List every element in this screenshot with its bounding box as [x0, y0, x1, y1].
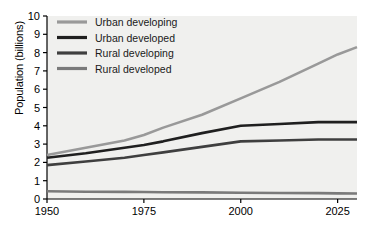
y-tick-label: 6 — [34, 83, 40, 95]
chart-canvas: 012345678910 1950197520002025 Urban deve… — [0, 0, 374, 225]
x-axis-ticks — [47, 199, 338, 203]
x-tick-label: 2000 — [229, 205, 253, 217]
legend-label: Rural developing — [95, 47, 174, 59]
population-line-chart: Population (billions) 012345678910 19501… — [0, 0, 374, 225]
x-tick-label: 1975 — [132, 205, 156, 217]
y-tick-label: 7 — [34, 65, 40, 77]
y-tick-label: 4 — [34, 120, 40, 132]
plot-background — [47, 16, 357, 199]
legend-label: Rural developed — [95, 63, 172, 75]
y-axis-tick-labels: 012345678910 — [28, 10, 40, 205]
legend-label: Urban developing — [95, 16, 177, 28]
y-tick-label: 10 — [28, 10, 40, 22]
y-tick-label: 9 — [34, 28, 40, 40]
y-tick-label: 3 — [34, 138, 40, 150]
x-tick-label: 1950 — [35, 205, 59, 217]
x-axis-tick-labels: 1950197520002025 — [35, 205, 350, 217]
y-tick-label: 1 — [34, 175, 40, 187]
x-tick-label: 2025 — [325, 205, 349, 217]
y-tick-label: 2 — [34, 156, 40, 168]
y-tick-label: 5 — [34, 102, 40, 114]
y-tick-label: 0 — [34, 193, 40, 205]
y-tick-label: 8 — [34, 47, 40, 59]
legend-label: Urban developed — [95, 32, 175, 44]
